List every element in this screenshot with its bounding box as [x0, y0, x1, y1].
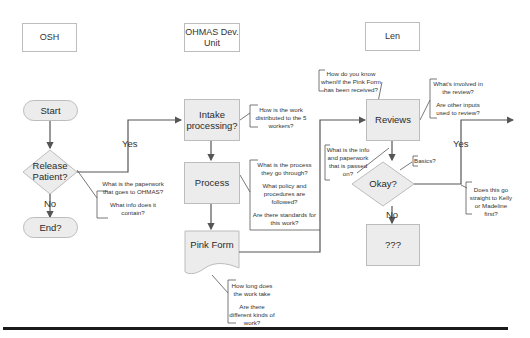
- swimlane-header-len: Len: [365, 22, 420, 51]
- note-pink-form: How long does the work take Are there di…: [229, 282, 275, 327]
- note-line: What's involved in the review?: [432, 80, 484, 96]
- note-line: What is the process they go through?: [252, 161, 317, 177]
- note-line: Basics?: [414, 157, 440, 165]
- process-box: Process: [184, 162, 240, 204]
- note-line: How is the work distributed to the 5 wor…: [252, 106, 310, 130]
- note-line: How long does the work take: [229, 282, 275, 298]
- release-patient-label: Release Patient?: [23, 157, 77, 187]
- note-line: What is the info and paperwork that is p…: [326, 146, 370, 178]
- release-yes-label: Yes: [122, 138, 138, 149]
- okay-yes-label: Yes: [453, 138, 469, 149]
- release-no-label: No: [44, 198, 56, 209]
- note-basics: Basics?: [414, 157, 440, 165]
- pink-form-label: Pink Form: [185, 236, 239, 252]
- intake-processing-box: Intake processing?: [184, 99, 240, 141]
- note-release-patient: What is the paperwork that goes to OHMAS…: [99, 180, 167, 217]
- note-kelly-madeline: Does this go straight to Kelly or Madeli…: [468, 186, 514, 218]
- note-reviews-involved: What's involved in the review? Are other…: [432, 80, 484, 117]
- reviews-box: Reviews: [366, 99, 420, 141]
- okay-label: Okay?: [352, 176, 414, 192]
- swimlane-header-osh: OSH: [22, 23, 77, 52]
- note-intake: How is the work distributed to the 5 wor…: [252, 106, 310, 130]
- bottom-divider: [3, 327, 508, 330]
- note-line: Are there different kinds of work?: [229, 303, 275, 327]
- start-terminal: Start: [23, 100, 78, 121]
- note-line: Are there standards for this work?: [252, 211, 317, 227]
- note-line: Are other inputs used to review?: [432, 101, 484, 117]
- note-line: What policy and procedures are followed?: [252, 182, 317, 206]
- note-line: What is the paperwork that goes to OHMAS…: [99, 180, 167, 196]
- note-line: How do you know when/if the Pink Form ha…: [320, 70, 382, 94]
- note-process: What is the process they go through? Wha…: [252, 161, 317, 227]
- note-line: Does this go straight to Kelly or Madeli…: [468, 186, 514, 218]
- note-info-passed-on: What is the info and paperwork that is p…: [326, 146, 370, 178]
- swimlane-header-ohmas-dev-unit: OHMAS Dev. Unit: [184, 23, 240, 52]
- flowchart-canvas: OSH OHMAS Dev. Unit Len Start End? Relea…: [0, 0, 530, 338]
- note-reviews-received: How do you know when/if the Pink Form ha…: [320, 70, 382, 94]
- end-terminal: End?: [23, 217, 78, 238]
- okay-no-label: No: [386, 209, 398, 220]
- unknown-step-box: ???: [366, 224, 420, 266]
- note-line: What info does it contain?: [99, 201, 167, 217]
